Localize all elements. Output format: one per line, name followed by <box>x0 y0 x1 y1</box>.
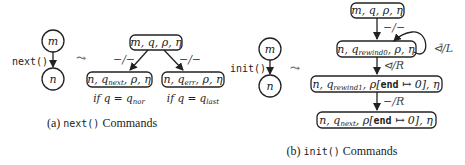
panel-a: m n next() ⤳ m, q, ρ, η −/− −/− n, qnext… <box>12 30 224 130</box>
source-edge-label: init() <box>230 63 266 74</box>
node-m-label: m <box>265 43 275 56</box>
source-edge-label: next() <box>12 56 48 67</box>
edge-2-label: ⊲/R <box>383 59 404 72</box>
node-n-label: n <box>266 80 273 93</box>
caption-b: (b) init() Commands <box>287 144 398 158</box>
root-state-label: m, q, ρ, η <box>130 36 182 49</box>
diagram-canvas: m n next() ⤳ m, q, ρ, η −/− −/− n, qnext… <box>0 0 465 165</box>
state-box-1-label: m, q, ρ, η <box>351 4 403 17</box>
self-loop-label: ⊲̄/L <box>433 42 453 55</box>
panel-b: m n init() ⤳ m, q, ρ, η −/− n, qrewind0,… <box>230 3 453 158</box>
node-m-label: m <box>48 35 58 48</box>
caption-a: (a) next() Commands <box>47 116 157 130</box>
node-n-label: n <box>49 73 56 86</box>
edge-to-next-label: −/− <box>113 53 135 66</box>
state-box-3-label: n, qrewind1, ρ[end ↦ 0], η <box>312 78 440 92</box>
edge-to-err-label: −/− <box>179 53 201 66</box>
next-condition: if q = qnor <box>93 92 145 106</box>
leadsto-icon: ⤳ <box>76 51 86 65</box>
leadsto-icon: ⤳ <box>290 61 300 75</box>
edge-3-label: −/R <box>383 95 404 108</box>
err-condition: if q = qlast <box>167 92 220 106</box>
edge-1-label: −/− <box>383 21 405 34</box>
state-box-4-label: n, qnext, ρ[end ↦ 0], η <box>319 114 433 128</box>
